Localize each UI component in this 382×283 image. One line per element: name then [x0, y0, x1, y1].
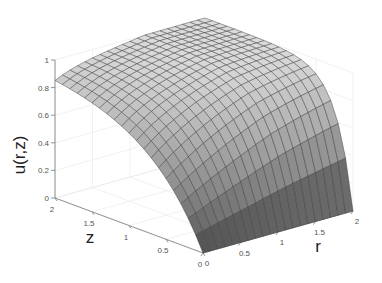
- u-tick-label: 0.2: [38, 166, 50, 175]
- z-tick-label: 0.5: [157, 246, 169, 255]
- z-tick-label: 1: [124, 233, 129, 242]
- u-axis-label: u(r,z): [10, 136, 29, 175]
- u-tick-label: 0.4: [38, 139, 50, 148]
- u-tick-label: 0.8: [38, 84, 50, 93]
- u-tick-label: 1: [45, 56, 50, 65]
- z-tick-label: 2: [50, 205, 55, 214]
- r-axis-label: r: [315, 237, 321, 256]
- u-tick-label: 0.6: [38, 111, 50, 120]
- z-tick-label: 0: [198, 260, 203, 269]
- r-tick-label: 1: [280, 238, 285, 247]
- u-tick-label: 0: [45, 194, 50, 203]
- r-tick-label: 0: [205, 259, 210, 268]
- r-tick-label: 1.5: [314, 228, 326, 237]
- surface-mesh: [55, 18, 353, 253]
- z-axis-label: z: [86, 228, 95, 247]
- z-tick-label: 1.5: [83, 219, 95, 228]
- r-tick-label: 2: [355, 217, 360, 226]
- r-tick-label: 0.5: [239, 249, 251, 258]
- surface-plot: 00.20.40.60.8100.511.5200.511.52 u(r,z) …: [0, 0, 382, 283]
